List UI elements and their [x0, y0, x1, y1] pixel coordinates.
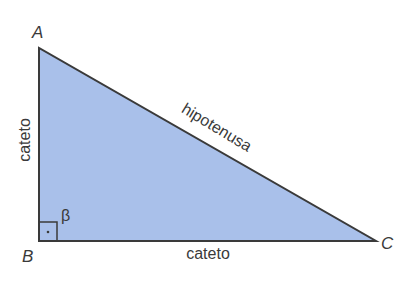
- side-label-horizontal-leg: cateto: [186, 245, 230, 262]
- triangle-shape: [39, 48, 376, 241]
- vertex-label-c: C: [381, 234, 394, 253]
- right-triangle-diagram: A B C β cateto cateto hipotenusa: [0, 0, 412, 286]
- angle-label-beta: β: [61, 207, 70, 224]
- right-angle-dot: [47, 231, 50, 234]
- vertex-label-b: B: [22, 247, 33, 266]
- vertex-label-a: A: [31, 23, 43, 42]
- side-label-vertical-leg: cateto: [16, 118, 33, 162]
